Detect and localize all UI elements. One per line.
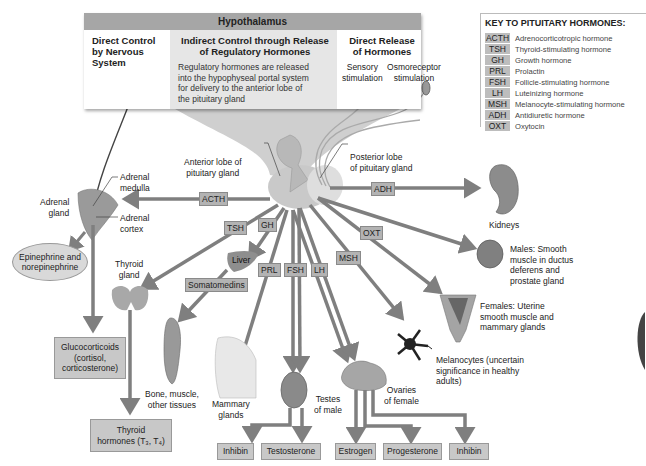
hypothalamus-title: Hypothalamus bbox=[84, 13, 421, 30]
hormone-tag-prl: PRL bbox=[258, 263, 281, 277]
hormone-tag-gh: GH bbox=[258, 218, 277, 232]
hormone-key: KEY TO PITUITARY HORMONES: ACTHAdrenocor… bbox=[480, 13, 646, 127]
hormone-tag-msh: MSH bbox=[336, 251, 361, 265]
anterior-lobe-label: Anterior lobe of pituitary gland bbox=[184, 157, 242, 178]
adrenal-cortex-label: Adrenal cortex bbox=[120, 213, 149, 234]
females-target-label: Females: Uterine smooth muscle and mamma… bbox=[480, 301, 554, 333]
output-epinephrine: Epinephrine and norepinephrine bbox=[12, 243, 88, 281]
osmoreceptor-stimulation-label: Osmoreceptor stimulation bbox=[384, 62, 444, 83]
posterior-lobe-label: Posterior lobe of pituitary gland bbox=[350, 152, 412, 173]
thyroid-gland-label: Thyroid gland bbox=[115, 259, 143, 280]
key-title: KEY TO PITUITARY HORMONES: bbox=[485, 18, 626, 28]
liver-label: Liver bbox=[232, 255, 250, 266]
hormone-tag-fsh: FSH bbox=[284, 263, 307, 277]
ovaries-icon bbox=[341, 361, 386, 391]
hormone-tag-tsh: TSH bbox=[224, 221, 247, 235]
adrenal-gland-label: Adrenal gland bbox=[40, 197, 69, 218]
hypothalamus-panel: Hypothalamus Direct Control by Nervous S… bbox=[84, 13, 421, 109]
ovaries-label: Ovaries of female bbox=[384, 385, 419, 406]
key-row-acth: ACTHAdrenocorticotropic hormone bbox=[485, 33, 613, 43]
muscle-icon bbox=[164, 318, 181, 384]
adrenal-medulla-label: Adrenal medulla bbox=[120, 172, 150, 193]
males-target-label: Males: Smooth muscle in ductus deferens … bbox=[510, 244, 573, 286]
kidney-icon bbox=[490, 165, 519, 214]
testes-icon bbox=[281, 372, 307, 408]
key-row-oxt: OXTOxytocin bbox=[485, 121, 545, 131]
key-row-prl: PRLProlactin bbox=[485, 66, 545, 76]
direct-release-heading: Direct Release of Hormones bbox=[342, 35, 422, 57]
prostate-icon bbox=[477, 240, 503, 268]
output-glucocorticoids: Glucocorticoids (cortisol, corticosteron… bbox=[54, 337, 126, 379]
output-progesterone: Progesterone bbox=[383, 443, 442, 460]
hormone-tag-oxt: OXT bbox=[360, 226, 383, 240]
output-estrogen: Estrogen bbox=[335, 443, 376, 460]
kidneys-label: Kidneys bbox=[489, 220, 519, 231]
indirect-control-description: Regulatory hormones are released into th… bbox=[178, 62, 309, 104]
thyroid-gland-icon bbox=[112, 286, 149, 310]
hormone-tag-lh: LH bbox=[311, 263, 328, 277]
key-row-msh: MSHMelanocyte-stimulating hormone bbox=[485, 99, 625, 109]
mammary-glands-label: Mammary glands bbox=[212, 399, 250, 420]
mammary-gland-icon bbox=[215, 337, 256, 398]
key-row-gh: GHGrowth hormone bbox=[485, 55, 572, 65]
key-row-tsh: TSHThyroid-stimulating hormone bbox=[485, 44, 611, 54]
melanocytes-label: Melanocytes (uncertain significance in h… bbox=[436, 355, 524, 387]
hormone-tag-somatomedins: Somatomedins bbox=[185, 278, 248, 292]
indirect-control-heading: Indirect Control through Release of Regu… bbox=[176, 35, 334, 57]
key-row-adh: ADHAntidiuretic hormone bbox=[485, 110, 585, 120]
hormone-tag-adh: ADH bbox=[371, 182, 395, 196]
direct-control-heading: Direct Control by Nervous System bbox=[92, 35, 155, 68]
key-row-fsh: FSHFollicle-stimulating hormone bbox=[485, 77, 610, 87]
output-testosterone: Testosterone bbox=[261, 443, 321, 460]
output-inhibin-male: Inhibin bbox=[217, 443, 254, 460]
output-thyroid-hormones: Thyroid hormones (T₃, T₄) bbox=[90, 419, 172, 452]
output-inhibin-female: Inhibin bbox=[449, 443, 489, 460]
key-row-lh: LHLuteinizing hormone bbox=[485, 88, 583, 98]
sensory-stimulation-label: Sensory stimulation bbox=[342, 62, 383, 83]
edge-fragment bbox=[637, 312, 645, 370]
hormone-tag-acth: ACTH bbox=[199, 192, 228, 206]
testes-label: Testes of male bbox=[314, 394, 342, 415]
bone-muscle-label: Bone, muscle, other tissues bbox=[145, 389, 199, 410]
